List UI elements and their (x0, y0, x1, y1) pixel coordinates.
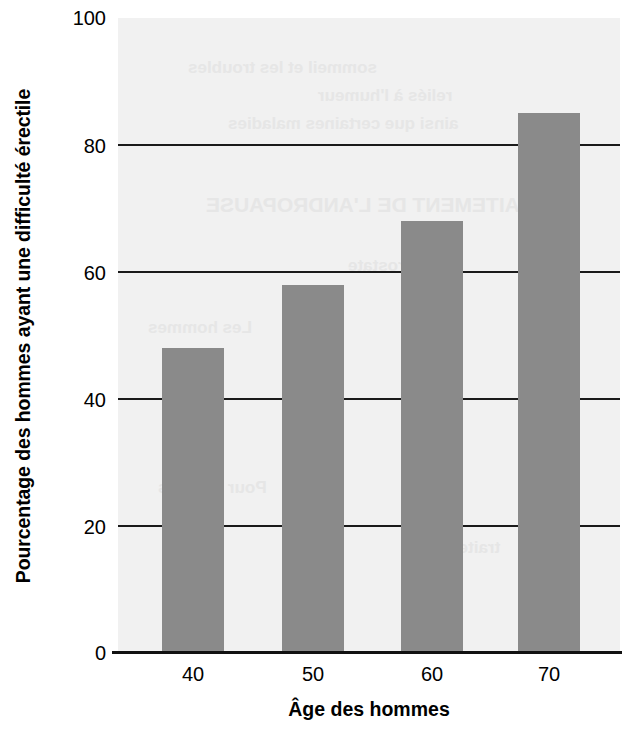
bleed-text-line: ainsi que certaines maladies (228, 114, 459, 134)
y-tick-label: 60 (38, 263, 106, 283)
bleed-text-line: sommeil et les troubles (188, 58, 377, 78)
x-axis-tick-labels: 40 50 60 70 (118, 661, 620, 689)
y-tick-label: 40 (38, 390, 106, 410)
y-tick-label: 20 (38, 517, 106, 537)
x-axis-line (112, 651, 622, 654)
y-axis-tick-labels: 100 80 60 40 20 0 (34, 0, 106, 741)
plot-area: sommeil et les troubles reliés à l'humeu… (118, 18, 620, 653)
y-tick-label: 0 (38, 643, 106, 663)
bar-40 (162, 348, 224, 653)
bar-50 (282, 285, 344, 653)
x-tick-label: 70 (514, 661, 584, 687)
x-tick-label: 40 (158, 661, 228, 687)
y-tick-label: 100 (38, 8, 106, 28)
y-axis-title: Pourcentage des hommes ayant une difficu… (11, 16, 35, 656)
bleed-text-line: reliés à l'humeur (318, 86, 452, 106)
bar-60 (401, 221, 463, 653)
bleed-text-line: Les hommes (148, 318, 252, 338)
bar-chart-figure: Pourcentage des hommes ayant une difficu… (0, 0, 635, 741)
x-axis-title: Âge des hommes (118, 697, 620, 721)
x-tick-label: 60 (397, 661, 467, 687)
bar-70 (518, 113, 580, 653)
y-tick-label: 80 (38, 136, 106, 156)
x-tick-label: 50 (278, 661, 348, 687)
